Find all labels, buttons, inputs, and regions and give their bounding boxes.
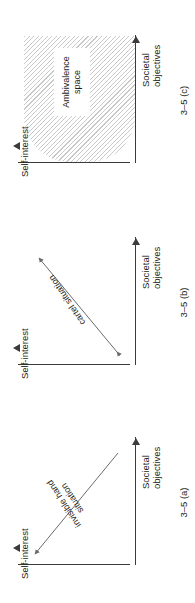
plot-area-a: invisible hand situation Self-interest S… (18, 431, 136, 581)
axis-label-self-interest-c: Self-interest (20, 107, 31, 177)
axis-label-self-interest-b: Self-interest (20, 309, 31, 379)
figure-strip: invisible hand situation Self-interest S… (0, 0, 195, 603)
axis-label-societal-objectives-b: Societal objectives (141, 227, 162, 289)
panel-caption-c: 3–5 (c) (178, 0, 189, 201)
axis-label-societal-objectives-a: Societal objectives (141, 427, 162, 489)
axis-label-self-interest-a: Self-interest (20, 509, 31, 579)
ambivalence-space-region: Ambivalence space (24, 36, 135, 162)
axis-label-societal-objectives-c: Societal objectives (141, 25, 162, 87)
axis-arrow-right-icon (132, 36, 140, 43)
panel-c: Ambivalence space Self-interest Societal… (0, 0, 195, 201)
self-interest-axis-c (18, 162, 130, 163)
panel-caption-a: 3–5 (a) (178, 402, 189, 603)
plot-area-c: Ambivalence space Self-interest Societal… (18, 29, 136, 179)
figure-rotator: invisible hand situation Self-interest S… (0, 0, 195, 603)
plot-area-b: cartel situation Self-interest Societal … (18, 231, 136, 381)
panel-caption-b: 3–5 (b) (178, 202, 189, 403)
panel-a: invisible hand situation Self-interest S… (0, 402, 195, 603)
panel-b: cartel situation Self-interest Societal … (0, 202, 195, 403)
societal-objectives-axis-c (135, 35, 136, 163)
ambivalence-space-label: Ambivalence space (54, 48, 90, 116)
